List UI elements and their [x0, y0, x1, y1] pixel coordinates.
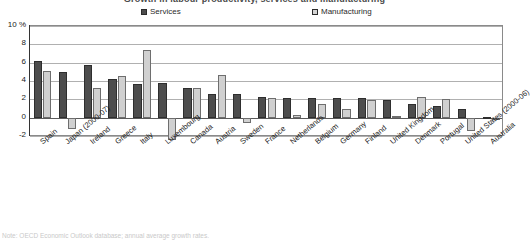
bar-services [233, 94, 241, 118]
bar-services [158, 83, 166, 118]
legend-item-manufacturing: Manufacturing [312, 6, 372, 18]
chart-footnote-clipped: Note: OECD Economic Outlook database; an… [2, 232, 332, 242]
bar-services [59, 72, 67, 118]
bar-services [358, 98, 366, 117]
bar-manufacturing [118, 76, 126, 118]
chart-legend: Services Manufacturing [0, 6, 509, 18]
bar-group [30, 26, 55, 135]
bar-manufacturing [268, 98, 276, 118]
bar-manufacturing [68, 118, 76, 129]
legend-label-services: Services [150, 8, 181, 16]
chart-footnote-text: Note: OECD Economic Outlook database; an… [2, 232, 332, 240]
bar-manufacturing [218, 75, 226, 118]
bar-manufacturing [293, 115, 301, 118]
bar-services [283, 98, 291, 118]
bar-group [329, 26, 354, 135]
bar-services [333, 98, 341, 118]
bar-services [208, 94, 216, 118]
y-tick-label-6: 6 [0, 58, 26, 66]
bar-group [155, 26, 180, 135]
y-tick-label-10: 10 % [0, 21, 26, 29]
y-tick-label-2: 2 [0, 94, 26, 102]
bar-services [183, 88, 191, 117]
bar-group [454, 26, 479, 135]
bar-group [205, 26, 230, 135]
bar-manufacturing [43, 71, 51, 118]
bar-services [34, 61, 42, 118]
chart-title-text: Growth in labour productivity, services … [0, 0, 509, 4]
legend-label-manufacturing: Manufacturing [321, 8, 372, 16]
bar-group [379, 26, 404, 135]
bar-group [354, 26, 379, 135]
legend-swatch-services-icon [141, 9, 147, 15]
bar-group [105, 26, 130, 135]
bar-services [458, 109, 466, 118]
bar-manufacturing [243, 118, 251, 124]
bar-group [55, 26, 80, 135]
bar-services [258, 97, 266, 118]
y-tick-label-4: 4 [0, 76, 26, 84]
y-tick-label-0: 0 [0, 113, 26, 121]
bar-services [133, 84, 141, 118]
bar-group [230, 26, 255, 135]
bar-group [429, 26, 454, 135]
legend-item-services: Services [141, 6, 181, 18]
bar-group [130, 26, 155, 135]
bar-manufacturing [342, 109, 350, 117]
bar-services [383, 100, 391, 117]
x-axis-category-labels: SpainJapan (2000-07)IrelandGreeceItalyLu… [0, 138, 509, 208]
y-tick-label-8: 8 [0, 39, 26, 47]
y-axis-tick-labels: 10 %86420-2 [0, 25, 28, 136]
bar-manufacturing [367, 100, 375, 117]
legend-swatch-manufacturing-icon [312, 9, 318, 15]
bar-services [308, 98, 316, 117]
bar-manufacturing [392, 116, 400, 118]
bar-services [84, 65, 92, 118]
bar-group [279, 26, 304, 135]
bar-manufacturing [442, 99, 450, 117]
y-axis-line [29, 25, 30, 136]
bar-group [255, 26, 280, 135]
bar-manufacturing [143, 50, 151, 118]
